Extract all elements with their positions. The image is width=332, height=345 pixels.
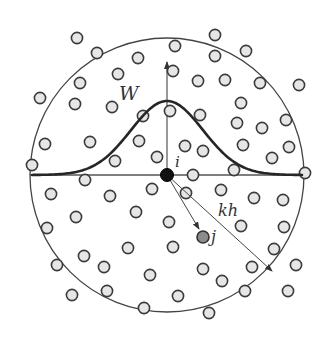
particle: [91, 47, 102, 58]
particle: [266, 152, 277, 163]
particle: [163, 216, 174, 227]
particle: [172, 290, 183, 301]
particle: [237, 139, 248, 150]
particle: [280, 114, 291, 125]
particle: [66, 289, 77, 300]
particle: [254, 77, 265, 88]
particle: [194, 109, 205, 120]
particle: [268, 243, 279, 254]
particle: [144, 269, 155, 280]
particle: [169, 40, 180, 51]
particle: [293, 79, 304, 90]
particle: [122, 242, 133, 253]
particle: [133, 135, 144, 146]
particle: [79, 174, 90, 185]
particle: [197, 145, 208, 156]
particle: [26, 159, 37, 170]
particle: [167, 241, 178, 252]
particle: [151, 151, 162, 162]
particle: [51, 259, 62, 270]
particle: [278, 221, 289, 232]
particle: [290, 259, 301, 270]
particle: [216, 275, 227, 286]
particle: [235, 97, 246, 108]
particle: [74, 77, 85, 88]
particle: [39, 138, 50, 149]
particle: [106, 101, 117, 112]
particle: [84, 136, 95, 147]
particle: [104, 190, 115, 201]
particle: [209, 50, 220, 61]
particle: [192, 75, 203, 86]
particle: [179, 140, 190, 151]
particle: [112, 68, 123, 79]
particle: [138, 302, 149, 313]
particle: [231, 117, 242, 128]
particle: [41, 222, 52, 233]
particle: [282, 285, 293, 296]
particle: [228, 164, 239, 175]
particle: [132, 52, 143, 63]
kernel-label-w: W: [119, 82, 140, 104]
particle: [283, 141, 294, 152]
particle: [197, 263, 208, 274]
particle: [248, 192, 259, 203]
particle: [70, 211, 81, 222]
particle: [203, 307, 214, 318]
particle: [109, 155, 120, 166]
particle: [71, 32, 82, 43]
particle: [34, 92, 45, 103]
particle: [215, 184, 226, 195]
particle: [78, 250, 89, 261]
particle: [239, 285, 250, 296]
radius-label-kh: kh: [218, 201, 238, 220]
particle: [256, 122, 267, 133]
particle: [299, 167, 310, 178]
particle: [167, 65, 178, 76]
particle: [240, 45, 251, 56]
center-label-i: i: [175, 153, 180, 171]
particle: [187, 169, 198, 180]
particle: [209, 29, 220, 40]
particle: [235, 220, 246, 231]
particle: [219, 74, 230, 85]
particle: [277, 194, 288, 205]
particle: [246, 261, 257, 272]
particle: [69, 98, 80, 109]
particle: [164, 105, 175, 116]
neighbor-particle-j: [197, 231, 209, 243]
particle: [101, 285, 112, 296]
sph-kernel-diagram: W i j kh: [0, 0, 332, 345]
particle: [146, 183, 157, 194]
particle: [130, 206, 141, 217]
particle: [98, 261, 109, 272]
center-particle-i: [161, 169, 174, 182]
particle: [45, 188, 56, 199]
